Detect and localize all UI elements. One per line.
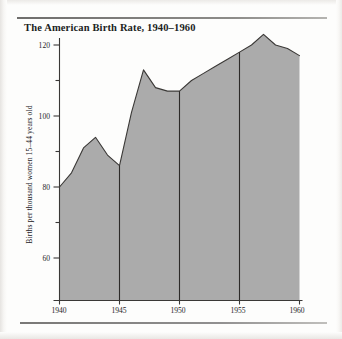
x-tick-label-1955: 1955 <box>223 306 253 315</box>
y-axis-title: Births per thousand women 15–44 years ol… <box>25 80 34 270</box>
y-tick-label-100: 100 <box>28 112 50 121</box>
x-tick-label-1950: 1950 <box>163 306 193 315</box>
plot-area: Births per thousand women 15–44 years ol… <box>0 0 342 339</box>
x-tick-label-1940: 1940 <box>44 306 74 315</box>
figure-container: The American Birth Rate, 1940–1960 Birth… <box>0 0 342 339</box>
y-tick-label-120: 120 <box>28 41 50 50</box>
x-tick-label-1960: 1960 <box>282 306 312 315</box>
chart-canvas <box>0 0 342 339</box>
y-tick-label-60: 60 <box>28 254 50 263</box>
footer-rule <box>20 322 327 324</box>
y-tick-label-80: 80 <box>28 183 50 192</box>
x-tick-label-1945: 1945 <box>104 306 134 315</box>
